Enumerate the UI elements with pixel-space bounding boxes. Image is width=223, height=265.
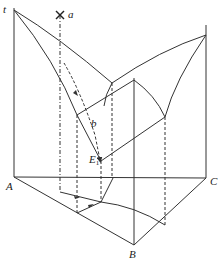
label-E1: E1	[89, 154, 99, 167]
curve-A-to-top-junction	[14, 10, 112, 83]
label-t: t	[3, 4, 6, 15]
label-C: C	[210, 176, 217, 187]
projection-to-BC	[101, 202, 165, 225]
phase-diagram: t a b E1 A B C	[0, 0, 223, 265]
label-B: B	[129, 249, 136, 260]
base-AC	[14, 177, 206, 178]
curve-C-to-right-point	[165, 35, 206, 117]
projection-to-AC	[101, 178, 113, 202]
label-E: E	[89, 153, 96, 165]
projection-path-a	[60, 192, 101, 202]
base-BC	[134, 178, 206, 245]
label-b: b	[91, 118, 97, 129]
curve-junction-to-C	[112, 35, 206, 83]
tie-line-E1	[101, 117, 165, 161]
label-A: A	[6, 181, 13, 192]
curve-B-to-right-point	[134, 80, 165, 117]
label-E-subscript: 1	[96, 159, 100, 167]
arrow-path-upper	[73, 90, 78, 96]
base-AB	[14, 177, 134, 245]
diagram-lines	[0, 0, 223, 265]
label-a: a	[68, 9, 74, 20]
curve-A-to-E1	[14, 10, 101, 161]
